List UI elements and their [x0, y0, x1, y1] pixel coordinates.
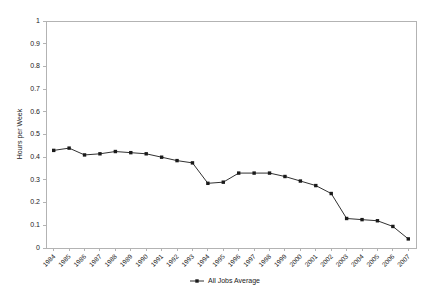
data-point-marker — [129, 151, 132, 154]
line-chart: 00.10.20.30.40.50.60.70.80.91 1984198519… — [0, 0, 438, 297]
data-point-marker — [52, 149, 55, 152]
x-axis-tick-label: 1995 — [211, 252, 226, 267]
x-axis-tick-label: 1999 — [272, 252, 287, 267]
data-point-marker — [160, 156, 163, 159]
y-axis-tick-label: 0.5 — [30, 130, 40, 137]
y-axis-tick-label: 0.6 — [30, 108, 40, 115]
data-point-marker — [67, 146, 70, 149]
chart-container: 00.10.20.30.40.50.60.70.80.91 1984198519… — [0, 0, 438, 297]
data-point-marker — [252, 171, 255, 174]
x-axis: 1984198519861987198819891990199119921993… — [41, 248, 411, 268]
x-axis-tick-label: 2003 — [334, 252, 349, 267]
data-point-marker — [145, 152, 148, 155]
y-axis-tick-label: 0.3 — [30, 176, 40, 183]
x-axis-tick-label: 1986 — [72, 252, 87, 267]
y-axis-tick-label: 0.9 — [30, 40, 40, 47]
data-point-marker — [299, 179, 302, 182]
y-axis-tick-label: 1 — [36, 17, 40, 24]
x-axis-tick-label: 2006 — [380, 252, 395, 267]
data-point-marker — [360, 218, 363, 221]
x-axis-tick-label: 2001 — [303, 252, 318, 267]
x-axis-tick-label: 1996 — [226, 252, 241, 267]
legend-swatch-marker — [195, 279, 198, 282]
y-axis-tick-label: 0.1 — [30, 221, 40, 228]
x-axis-tick-label: 1990 — [134, 252, 149, 267]
x-axis-tick-label: 1993 — [180, 252, 195, 267]
data-point-marker — [345, 217, 348, 220]
x-axis-tick-label: 1998 — [257, 252, 272, 267]
legend-entry-label: All Jobs Average — [208, 277, 260, 285]
y-axis-tick-label: 0.7 — [30, 85, 40, 92]
data-point-marker — [376, 219, 379, 222]
data-point-marker — [283, 175, 286, 178]
x-axis-tick-label: 2005 — [365, 252, 380, 267]
y-axis-tick-label: 0.8 — [30, 62, 40, 69]
data-point-marker — [222, 180, 225, 183]
y-axis-title: Hours per Week — [16, 108, 24, 159]
y-axis-tick-label: 0.2 — [30, 198, 40, 205]
data-point-marker — [191, 161, 194, 164]
data-point-marker — [407, 237, 410, 240]
x-axis-tick-label: 1992 — [165, 252, 180, 267]
data-point-marker — [83, 153, 86, 156]
x-axis-tick-label: 2000 — [288, 252, 303, 267]
y-axis: 00.10.20.30.40.50.60.70.80.91 — [30, 17, 46, 251]
data-point-marker — [206, 182, 209, 185]
x-axis-tick-label: 1991 — [149, 252, 164, 267]
data-point-marker — [114, 150, 117, 153]
y-axis-tick-label: 0 — [36, 244, 40, 251]
plot-area — [46, 21, 416, 248]
x-axis-tick-label: 1994 — [195, 252, 210, 267]
data-point-marker — [237, 171, 240, 174]
x-axis-tick-label: 2004 — [350, 252, 365, 267]
chart-legend: All Jobs Average — [190, 277, 260, 285]
x-axis-tick-label: 2007 — [396, 252, 411, 267]
x-axis-tick-label: 1987 — [87, 252, 102, 267]
x-axis-tick-label: 1988 — [103, 252, 118, 267]
data-point-marker — [391, 225, 394, 228]
data-point-marker — [98, 152, 101, 155]
y-axis-tick-label: 0.4 — [30, 153, 40, 160]
data-point-marker — [268, 171, 271, 174]
data-point-marker — [330, 192, 333, 195]
x-axis-tick-label: 2002 — [319, 252, 334, 267]
x-axis-tick-label: 1984 — [41, 252, 56, 267]
data-point-marker — [175, 159, 178, 162]
x-axis-tick-label: 1997 — [242, 252, 257, 267]
x-axis-tick-label: 1985 — [57, 252, 72, 267]
data-point-marker — [314, 184, 317, 187]
plot-frame — [46, 21, 416, 248]
x-axis-tick-label: 1989 — [118, 252, 133, 267]
